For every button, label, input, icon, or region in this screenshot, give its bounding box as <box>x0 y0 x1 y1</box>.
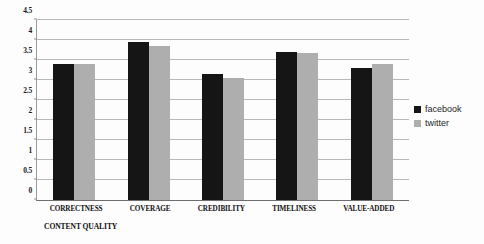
plot-area: 00.511.522.533.544.5 <box>36 20 409 201</box>
y-axis-tick-label: 2.5 <box>23 86 32 95</box>
legend-item-twitter: twitter <box>414 118 480 128</box>
legend-item-label: twitter <box>425 118 449 128</box>
legend-item-facebook: facebook <box>414 104 480 114</box>
x-axis-category-label: COVERAGE <box>130 203 171 219</box>
bar-chart-figure: 00.511.522.533.544.5 CORRECTNESSCOVERAGE… <box>0 0 484 244</box>
bar-twitter <box>297 53 318 200</box>
x-axis-category-label: TIMELINESS <box>272 203 316 219</box>
bar-facebook <box>53 64 74 200</box>
bar-facebook <box>128 42 149 200</box>
x-axis-category-label: CORRECTNESS <box>50 203 103 219</box>
black-square-icon <box>414 106 421 113</box>
y-axis-tick-label: 0.5 <box>23 166 32 175</box>
bar-facebook <box>202 74 223 200</box>
y-axis-tick-label: 3.5 <box>23 46 32 55</box>
bars-layer <box>37 20 409 200</box>
chart-legend: facebooktwitter <box>414 104 480 132</box>
legend-item-label: facebook <box>425 104 462 114</box>
bar-twitter <box>372 64 393 200</box>
bar-group <box>276 20 318 200</box>
bar-twitter <box>74 64 95 200</box>
bar-twitter <box>223 78 244 200</box>
gray-square-icon <box>414 120 421 127</box>
bar-group <box>202 20 244 200</box>
x-axis-title: CONTENT QUALITY <box>44 222 117 231</box>
y-axis-tick-label: 2 <box>28 106 32 115</box>
bar-group <box>53 20 95 200</box>
x-axis-category-label: CREDIBILITY <box>198 203 245 219</box>
y-axis-tick-label: 1.5 <box>23 126 32 135</box>
y-axis-tick-label: 1 <box>28 146 32 155</box>
bar-twitter <box>149 46 170 200</box>
y-axis-tick-label: 4 <box>28 26 32 35</box>
bar-facebook <box>276 52 297 200</box>
x-axis-category-labels: CORRECTNESSCOVERAGECREDIBILITYTIMELINESS… <box>36 203 408 219</box>
y-axis-tick-label: 0 <box>28 186 32 195</box>
bar-group <box>351 20 393 200</box>
x-axis-category-label: VALUE-ADDED <box>343 203 394 219</box>
bar-group <box>128 20 170 200</box>
y-axis-tick-label: 3 <box>28 66 32 75</box>
y-axis-tick-label: 4.5 <box>23 6 32 15</box>
bar-facebook <box>351 68 372 200</box>
